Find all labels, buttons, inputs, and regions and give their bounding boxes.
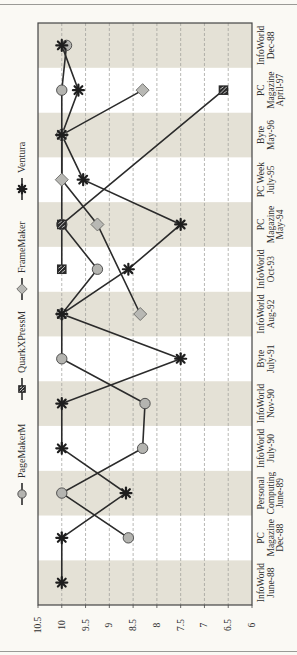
category-band	[38, 157, 252, 202]
svg-text:May-96: May-96	[266, 120, 276, 150]
legend-item-ventura: Ventura	[16, 141, 27, 200]
svg-text:PC Week: PC Week	[256, 162, 266, 197]
value-tick-label: 10.5	[33, 616, 43, 633]
category-label: PersonalComputingJune-89	[256, 471, 285, 514]
category-label: InfoWorldOct-93	[256, 249, 276, 289]
category-label: PCMagazineMay-94	[256, 206, 285, 243]
category-label: PCMagazineDec-88	[256, 519, 285, 556]
svg-text:InfoWorld: InfoWorld	[256, 25, 266, 65]
category-band	[38, 515, 252, 560]
svg-text:Oct-93: Oct-93	[266, 256, 276, 283]
svg-text:July-95: July-95	[266, 165, 276, 194]
category-label: PCMagazineApril-97	[256, 71, 285, 108]
value-tick-label: 9	[104, 622, 114, 627]
legend-item-pagemakerm: PageMakerM	[16, 423, 27, 505]
rotated-line-chart: 10.5109.598.587.576.56 InfoWorldJune-88P…	[0, 0, 297, 655]
svg-text:Nov-90: Nov-90	[266, 389, 276, 418]
svg-text:July-91: July-91	[266, 344, 276, 373]
value-tick-label: 7.5	[176, 619, 186, 631]
category-label: InfoWorldNov-90	[256, 384, 276, 424]
category-axis-labels: InfoWorldJune-88PCMagazineDec-88Personal…	[256, 25, 285, 602]
category-label: ByteJuly-91	[256, 344, 276, 373]
svg-text:April-97: April-97	[275, 74, 285, 107]
svg-text:PC: PC	[256, 84, 266, 96]
category-band	[38, 336, 252, 381]
svg-text:Byte: Byte	[256, 126, 266, 144]
category-band	[38, 560, 252, 605]
category-band	[38, 471, 252, 516]
svg-text:Computing: Computing	[266, 471, 276, 514]
legend: PageMakerMQuarkXPressMFrameMakerVentura	[16, 141, 27, 505]
svg-text:PC: PC	[256, 532, 266, 544]
svg-text:June-88: June-88	[266, 567, 276, 597]
category-label: InfoWorldJune-88	[256, 563, 276, 603]
svg-text:InfoWorld: InfoWorld	[256, 249, 266, 289]
category-label: InfoWorldAug-92	[256, 294, 276, 334]
value-tick-label: 7	[199, 622, 209, 627]
svg-text:QuarkXPressM: QuarkXPressM	[16, 311, 27, 373]
value-tick-label: 10	[57, 620, 67, 630]
category-label: PC WeekJuly-95	[256, 162, 276, 197]
value-tick-label: 9.5	[81, 619, 91, 631]
legend-item-quarkxpressm: QuarkXPressM	[16, 311, 27, 400]
svg-text:Byte: Byte	[256, 350, 266, 368]
category-label: ByteMay-96	[256, 120, 276, 150]
svg-text:InfoWorld: InfoWorld	[256, 294, 266, 334]
legend-item-framemaker: FrameMaker	[16, 221, 27, 300]
svg-text:Dec-88: Dec-88	[266, 31, 276, 59]
value-axis-ticks: 10.5109.598.587.576.56	[33, 605, 257, 633]
svg-text:June-89: June-89	[275, 478, 285, 508]
svg-text:PageMakerM: PageMakerM	[16, 423, 27, 478]
svg-text:Aug-92: Aug-92	[266, 299, 276, 328]
category-label: InfoWorldDec-88	[256, 25, 276, 65]
value-tick-label: 8.5	[128, 619, 138, 631]
svg-text:July-90: July-90	[266, 434, 276, 463]
svg-text:PC: PC	[256, 219, 266, 231]
category-band	[38, 247, 252, 292]
svg-text:Ventura: Ventura	[16, 141, 27, 173]
value-tick-label: 6	[247, 622, 257, 627]
svg-text:InfoWorld: InfoWorld	[256, 428, 266, 468]
value-tick-label: 8	[152, 622, 162, 627]
svg-text:May-94: May-94	[275, 209, 285, 239]
svg-text:Dec-88: Dec-88	[275, 524, 285, 552]
svg-text:Personal: Personal	[256, 476, 266, 509]
value-tick-label: 6.5	[223, 619, 233, 631]
svg-text:Magazine: Magazine	[266, 519, 276, 556]
category-label: InfoWorldJuly-90	[256, 428, 276, 468]
svg-text:Magazine: Magazine	[266, 71, 276, 108]
svg-text:Magazine: Magazine	[266, 206, 276, 243]
svg-text:InfoWorld: InfoWorld	[256, 384, 266, 424]
svg-text:FrameMaker: FrameMaker	[16, 221, 27, 273]
svg-text:InfoWorld: InfoWorld	[256, 563, 266, 603]
